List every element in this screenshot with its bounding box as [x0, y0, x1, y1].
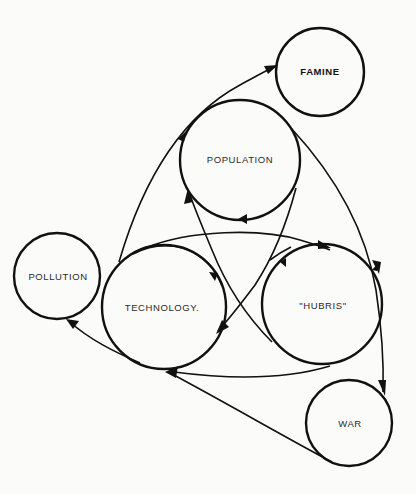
population-label: POPULATION — [207, 154, 274, 165]
famine-label: FAMINE — [300, 66, 340, 77]
node-hubris: "HUBRIS" — [262, 244, 382, 364]
node-technology: TECHNOLOGY. — [102, 245, 226, 369]
feedback-loop-diagram: FAMINE POPULATION POLLUTION TECHNOLOGY. … — [0, 0, 416, 494]
war-label: WAR — [338, 418, 362, 429]
node-famine: FAMINE — [276, 28, 364, 116]
pollution-label: POLLUTION — [28, 271, 87, 282]
edge-population-to-war — [291, 128, 383, 392]
technology-label: TECHNOLOGY. — [125, 302, 200, 313]
node-population: POPULATION — [180, 100, 300, 220]
node-pollution: POLLUTION — [14, 233, 100, 319]
edge-hubris-to-technology-bottom — [174, 366, 330, 377]
hubris-label: "HUBRIS" — [299, 300, 346, 311]
node-war: WAR — [306, 380, 392, 466]
edge-population-to-technology-inner — [133, 246, 222, 286]
edge-hubris-to-population-crossing — [189, 192, 272, 342]
edge-war-to-technology — [172, 374, 332, 462]
